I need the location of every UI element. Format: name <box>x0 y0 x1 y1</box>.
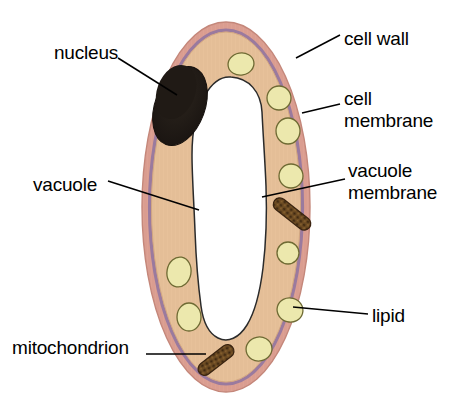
label-cell-wall: cell wall <box>344 28 409 50</box>
label-vacuole-membrane-line2: membrane <box>348 182 437 203</box>
label-mitochondrion: mitochondrion <box>12 337 129 359</box>
label-cell-membrane-line1: cell <box>344 88 372 109</box>
label-vacuole-membrane-line1: vacuole <box>348 160 412 181</box>
lipid-droplet <box>279 164 303 188</box>
lipid-droplet <box>177 303 201 331</box>
leader-line-cell-wall <box>296 35 340 58</box>
lipid-droplet <box>277 242 299 264</box>
label-nucleus: nucleus <box>54 42 118 64</box>
label-lipid: lipid <box>372 305 405 327</box>
lipid-droplet <box>276 118 300 144</box>
label-cell-membrane: cellmembrane <box>344 88 433 132</box>
label-cell-membrane-line2: membrane <box>344 110 433 131</box>
lipid-droplet <box>267 86 291 110</box>
cell-diagram: cell wall cellmembrane vacuolemembrane l… <box>0 0 461 402</box>
label-vacuole: vacuole <box>33 174 97 196</box>
leader-line-cell-membrane <box>302 104 340 113</box>
label-vacuole-membrane: vacuolemembrane <box>348 160 437 204</box>
leader-line-lipid <box>293 307 368 314</box>
